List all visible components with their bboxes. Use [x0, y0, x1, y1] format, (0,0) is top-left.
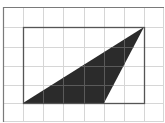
diagram-canvas [0, 0, 164, 122]
shaded-triangle [23, 27, 144, 103]
grid-outer-border [4, 8, 165, 123]
grid-lines [3, 7, 164, 122]
grid-diagram [0, 0, 164, 122]
